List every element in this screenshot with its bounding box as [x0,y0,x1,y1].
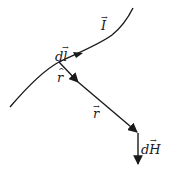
r-hat-label: r ^ [57,66,65,85]
r-label: r → [93,102,100,121]
r-vector [78,82,137,132]
svg-text:→: → [62,43,69,52]
dl-label: dl → [55,43,69,64]
biot-savart-diagram: I → dl → r ^ r → dH → [0,0,169,172]
svg-text:→: → [150,136,157,145]
dl-arrowhead-icon [73,52,83,58]
dH-label: dH → [141,136,161,157]
svg-text:→: → [101,13,108,22]
svg-text:→: → [93,102,100,111]
svg-text:^: ^ [58,66,65,75]
current-wire-curve [10,8,133,107]
current-label: I → [100,13,108,33]
